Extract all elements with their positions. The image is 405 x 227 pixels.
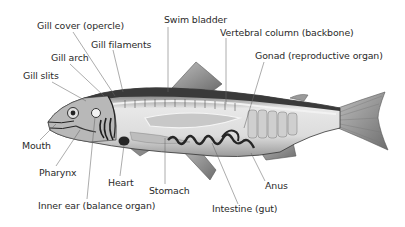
label-anus: Anus <box>265 180 288 191</box>
label-gill-slits: Gill slits <box>23 70 59 81</box>
label-pharynx: Pharynx <box>39 167 77 178</box>
label-gill-cover: Gill cover (opercle) <box>37 20 124 31</box>
label-heart: Heart <box>108 177 134 188</box>
leader-gill-arch <box>70 64 104 96</box>
leader-gill-slits <box>52 82 86 101</box>
dorsal-fin <box>172 62 222 90</box>
leader-anus <box>251 153 265 181</box>
label-swim-bladder: Swim bladder <box>164 14 227 25</box>
label-vertebral-column: Vertebral column (backbone) <box>220 27 354 38</box>
label-gill-filaments: Gill filaments <box>91 39 151 50</box>
inner-ear <box>92 109 101 118</box>
label-mouth: Mouth <box>22 140 51 151</box>
label-gill-arch: Gill arch <box>51 52 89 63</box>
leader-heart <box>120 145 124 176</box>
label-stomach: Stomach <box>149 185 190 196</box>
label-gonad: Gonad (reproductive organ) <box>255 50 383 61</box>
heart <box>119 137 130 146</box>
fish-anatomy-diagram: Gill cover (opercle) Gill filaments Gill… <box>0 0 405 227</box>
label-inner-ear: Inner ear (balance organ) <box>38 200 155 211</box>
caudal-fin <box>338 92 388 150</box>
label-intestine: Intestine (gut) <box>212 203 277 214</box>
leader-gill-filaments <box>113 50 123 92</box>
